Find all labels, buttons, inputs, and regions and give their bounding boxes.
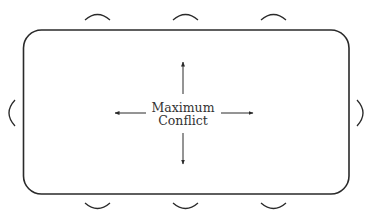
top-seats	[85, 15, 286, 21]
bottom-seats	[85, 203, 286, 209]
seat-top-1	[85, 15, 110, 21]
seat-left	[9, 100, 15, 126]
seat-top-2	[173, 15, 198, 21]
seat-bottom-2	[173, 203, 198, 209]
seat-bottom-3	[261, 203, 286, 209]
seating-diagram: Maximum Conflict	[0, 0, 373, 223]
seat-top-3	[261, 15, 286, 21]
seat-bottom-1	[85, 203, 110, 209]
center-label-line2: Conflict	[158, 113, 208, 128]
seat-right	[357, 100, 363, 126]
